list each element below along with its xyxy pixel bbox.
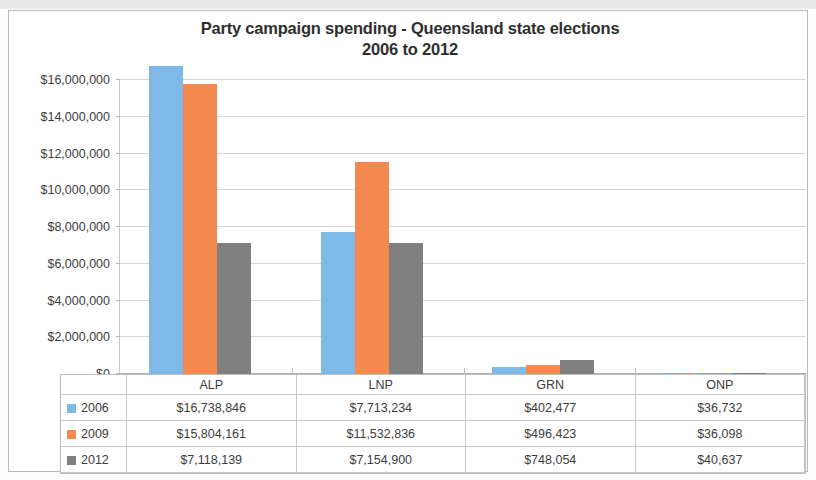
table-body: 2006$16,738,846$7,713,234$402,477$36,732… xyxy=(61,395,805,473)
y-axis-label: $8,000,000 xyxy=(2,220,110,234)
bar-group-alp xyxy=(120,80,292,374)
table-column-header-alp: ALP xyxy=(127,375,297,395)
legend-entry-2006: 2006 xyxy=(61,395,127,421)
bar-alp-2006 xyxy=(149,66,183,374)
table-cell-alp-2009: $15,804,161 xyxy=(127,421,297,447)
bar-alp-2012 xyxy=(217,243,251,374)
legend-swatch-icon xyxy=(67,404,76,413)
bar-alp-2009 xyxy=(183,84,217,374)
bar-grn-2006 xyxy=(492,367,526,374)
y-axis-label: $12,000,000 xyxy=(2,147,110,161)
bar-grn-2009 xyxy=(526,365,560,374)
legend-label: 2006 xyxy=(81,401,109,415)
table-row: 2006$16,738,846$7,713,234$402,477$36,732 xyxy=(61,395,805,421)
y-axis-label: $14,000,000 xyxy=(2,110,110,124)
bar-lnp-2006 xyxy=(321,232,355,374)
table-cell-onp-2012: $40,637 xyxy=(635,447,805,473)
legend-swatch-icon xyxy=(67,430,76,439)
y-axis-label: $6,000,000 xyxy=(2,257,110,271)
bar-group-lnp xyxy=(292,80,464,374)
legend-entry-2009: 2009 xyxy=(61,421,127,447)
table-cell-alp-2006: $16,738,846 xyxy=(127,395,297,421)
table-cell-lnp-2009: $11,532,836 xyxy=(296,421,466,447)
table-cell-lnp-2006: $7,713,234 xyxy=(296,395,466,421)
y-axis-label: $2,000,000 xyxy=(2,330,110,344)
plot-area xyxy=(119,80,806,374)
table-column-header-grn: GRN xyxy=(466,375,636,395)
bar-grn-2012 xyxy=(560,360,594,374)
legend-label: 2009 xyxy=(81,427,109,441)
data-table: ALPLNPGRNONP 2006$16,738,846$7,713,234$4… xyxy=(60,374,806,474)
bar-group-onp xyxy=(635,80,807,374)
table-corner-cell xyxy=(61,375,127,395)
table-row: 2009$15,804,161$11,532,836$496,423$36,09… xyxy=(61,421,805,447)
table-cell-lnp-2012: $7,154,900 xyxy=(296,447,466,473)
table-row: 2012$7,118,139$7,154,900$748,054$40,637 xyxy=(61,447,805,473)
table-cell-alp-2012: $7,118,139 xyxy=(127,447,297,473)
chart-title: Party campaign spending - Queensland sta… xyxy=(60,18,760,60)
bar-lnp-2012 xyxy=(389,243,423,374)
table-column-header-onp: ONP xyxy=(635,375,805,395)
chart-title-line-1: Party campaign spending - Queensland sta… xyxy=(60,18,760,39)
table-cell-grn-2006: $402,477 xyxy=(466,395,636,421)
legend-swatch-icon xyxy=(67,456,76,465)
bar-group-grn xyxy=(464,80,636,374)
table-cell-grn-2012: $748,054 xyxy=(466,447,636,473)
y-axis-label: $10,000,000 xyxy=(2,183,110,197)
table-header-row: ALPLNPGRNONP xyxy=(61,375,805,395)
table-cell-onp-2009: $36,098 xyxy=(635,421,805,447)
table-column-header-lnp: LNP xyxy=(296,375,466,395)
y-axis-label: $4,000,000 xyxy=(2,294,110,308)
y-axis-label: $16,000,000 xyxy=(2,73,110,87)
legend-label: 2012 xyxy=(81,453,109,467)
bar-lnp-2009 xyxy=(355,162,389,374)
table-cell-grn-2009: $496,423 xyxy=(466,421,636,447)
legend-entry-2012: 2012 xyxy=(61,447,127,473)
table-cell-onp-2006: $36,732 xyxy=(635,395,805,421)
chart-page: Party campaign spending - Queensland sta… xyxy=(0,0,816,480)
chart-title-line-2: 2006 to 2012 xyxy=(60,39,760,60)
